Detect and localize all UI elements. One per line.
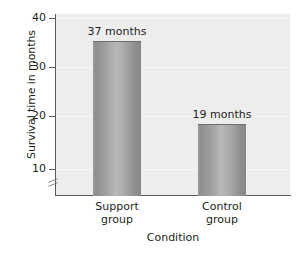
y-tick-mark-20 xyxy=(49,116,56,117)
x-category-label-support-group-line1: Support xyxy=(95,200,138,213)
plot-area xyxy=(56,14,290,196)
bar-support-group xyxy=(93,41,141,196)
bar-chart-figure: Survival time in months 40 30 20 10 37 m… xyxy=(0,0,303,256)
x-category-label-control-group-line2: group xyxy=(167,213,277,226)
y-tick-mark-40 xyxy=(49,18,56,19)
y-axis-break-icon xyxy=(48,178,58,187)
y-tick-label-10: 10 xyxy=(6,163,46,174)
x-category-label-support-group: Support group xyxy=(62,200,172,226)
x-axis-line xyxy=(55,195,291,196)
y-tick-label-20: 20 xyxy=(6,110,46,121)
gridline-30 xyxy=(56,67,290,68)
gridline-10 xyxy=(56,169,290,170)
bar-value-label-control-group: 19 months xyxy=(172,108,272,121)
bar-control-group xyxy=(198,124,246,196)
y-tick-label-40: 40 xyxy=(6,12,46,23)
x-category-label-control-group-line1: Control xyxy=(202,200,242,213)
x-axis-title: Condition xyxy=(56,231,290,244)
y-tick-mark-30 xyxy=(49,67,56,68)
x-category-label-support-group-line2: group xyxy=(62,213,172,226)
y-tick-mark-10 xyxy=(49,169,56,170)
y-tick-label-30: 30 xyxy=(6,61,46,72)
gridline-40 xyxy=(56,18,290,19)
y-axis-title: Survival time in months xyxy=(25,10,38,180)
bar-value-label-support-group: 37 months xyxy=(67,25,167,38)
x-category-label-control-group: Control group xyxy=(167,200,277,226)
